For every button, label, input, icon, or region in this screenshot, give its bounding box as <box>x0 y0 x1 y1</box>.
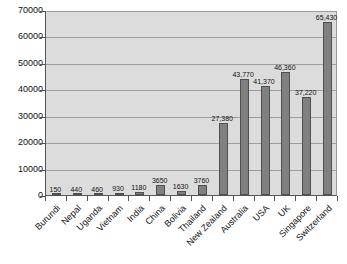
y-axis-tick-label: 50000 <box>0 59 43 68</box>
bar <box>219 123 228 195</box>
x-axis-tick-mark <box>295 196 296 201</box>
x-axis-tick-mark <box>87 196 88 201</box>
x-axis-tick-mark <box>274 196 275 201</box>
y-axis-tick-label: 10000 <box>0 165 43 174</box>
x-axis-tick-mark <box>191 196 192 201</box>
x-axis-tick-mark <box>45 196 46 201</box>
bar <box>135 192 144 195</box>
bar-value-label: 27,380 <box>202 115 242 122</box>
x-axis-tick-mark <box>66 196 67 201</box>
gridline <box>46 143 336 144</box>
y-axis-tick-label: 30000 <box>0 112 43 121</box>
bar <box>261 86 270 195</box>
bar-value-label: 41,370 <box>244 78 284 85</box>
x-axis-tick-mark <box>149 196 150 201</box>
y-axis-tick-label: 40000 <box>0 85 43 94</box>
bar-value-label: 65,430 <box>307 14 347 21</box>
bar-value-label: 3760 <box>181 177 221 184</box>
y-axis-tick-label: 60000 <box>0 32 43 41</box>
y-axis-tick-label: 20000 <box>0 138 43 147</box>
gridline <box>46 37 336 38</box>
x-axis-tick-mark <box>108 196 109 201</box>
x-axis-tick-mark <box>316 196 317 201</box>
bar <box>115 193 124 195</box>
bar <box>323 22 332 195</box>
bar-chart: 700006000050000400003000020000100000 Bur… <box>0 0 347 264</box>
bar <box>240 79 249 195</box>
bar <box>94 193 103 195</box>
x-axis-tick-mark <box>128 196 129 201</box>
bar-value-label: 46,360 <box>265 64 305 71</box>
gridline <box>46 117 336 118</box>
plot-area <box>45 11 337 196</box>
bar <box>177 191 186 195</box>
y-axis-tick-label: 70000 <box>0 6 43 15</box>
gridline <box>46 11 336 12</box>
bar <box>52 193 61 195</box>
bar <box>73 193 82 195</box>
bar <box>302 97 311 195</box>
x-axis-tick-mark <box>254 196 255 201</box>
x-axis-tick-mark <box>212 196 213 201</box>
x-axis-tick-mark <box>337 196 338 201</box>
bar-value-label: 37,220 <box>286 89 326 96</box>
x-axis-tick-mark <box>170 196 171 201</box>
x-axis-tick-mark <box>233 196 234 201</box>
gridline <box>46 170 336 171</box>
bar-value-label: 1180 <box>119 184 159 191</box>
